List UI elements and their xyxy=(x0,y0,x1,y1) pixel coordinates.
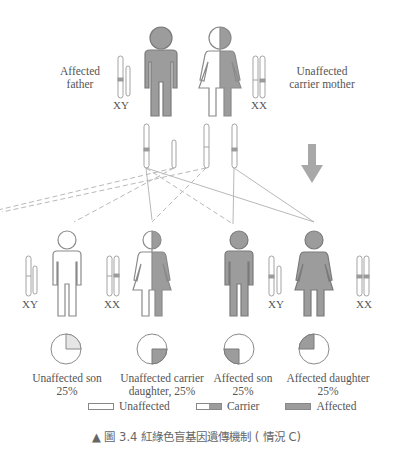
mother-figure xyxy=(199,27,241,116)
pie-affected-son xyxy=(224,334,254,364)
child4-label: Affected daughter 25% xyxy=(280,372,376,398)
father-label-line2: father xyxy=(40,78,120,91)
child2-label-line2: daughter, 25% xyxy=(112,385,212,398)
father-genotype: XY xyxy=(113,99,129,111)
child1-chromosomes xyxy=(26,256,37,296)
child-unaffected-son xyxy=(53,231,81,316)
father-label-line1: Affected xyxy=(40,65,120,78)
pie-carrier-daughter xyxy=(137,334,167,364)
child3-chromosomes xyxy=(269,256,281,296)
mother-label: Unaffected carrier mother xyxy=(272,65,372,91)
figure-caption: ▲ 圖 3.4 紅綠色盲基因遺傳機制 ( 情況 C) xyxy=(0,428,393,444)
legend-unaffected-label: Unaffected xyxy=(119,400,170,412)
mother-label-line2: carrier mother xyxy=(272,78,372,91)
father-label: Affected father xyxy=(40,65,120,91)
child4-chromosomes xyxy=(357,256,369,296)
child3-label-line2: 25% xyxy=(206,385,280,398)
child-affected-son xyxy=(225,231,253,316)
affected-swatch-icon xyxy=(285,403,311,410)
child-carrier-daughter xyxy=(133,231,171,316)
child-affected-daughter xyxy=(295,231,333,316)
child2-label-line1: Unaffected carrier xyxy=(112,372,212,385)
child2-chromosomes xyxy=(107,256,119,296)
carrier-swatch-icon xyxy=(196,403,222,410)
mother-chromosomes xyxy=(253,56,265,98)
gamete-chromosomes xyxy=(144,124,237,168)
legend: Unaffected Carrier Affected xyxy=(88,400,356,412)
pie-unaffected-son xyxy=(51,334,81,364)
legend-carrier-label: Carrier xyxy=(227,400,260,412)
child2-label: Unaffected carrier daughter, 25% xyxy=(112,372,212,398)
child1-label-line1: Unaffected son xyxy=(20,372,114,385)
unaffected-swatch-icon xyxy=(88,403,114,410)
legend-affected-label: Affected xyxy=(316,400,356,412)
child3-genotype: XY xyxy=(268,298,284,310)
legend-unaffected: Unaffected xyxy=(88,400,170,412)
child4-label-line1: Affected daughter xyxy=(280,372,376,385)
father-figure xyxy=(145,27,177,116)
child1-genotype: XY xyxy=(22,298,38,310)
child1-label-line2: 25% xyxy=(20,385,114,398)
pie-affected-daughter xyxy=(299,334,329,364)
inheritance-lines xyxy=(0,168,314,224)
down-arrow-icon xyxy=(301,144,323,183)
child4-label-line2: 25% xyxy=(280,385,376,398)
mother-label-line1: Unaffected xyxy=(272,65,372,78)
child4-genotype: XX xyxy=(356,298,372,310)
child3-label: Affected son 25% xyxy=(206,372,280,398)
child1-label: Unaffected son 25% xyxy=(20,372,114,398)
legend-affected: Affected xyxy=(285,400,356,412)
child3-label-line1: Affected son xyxy=(206,372,280,385)
legend-carrier: Carrier xyxy=(196,400,260,412)
mother-genotype: XX xyxy=(251,99,267,111)
child2-genotype: XX xyxy=(104,298,120,310)
